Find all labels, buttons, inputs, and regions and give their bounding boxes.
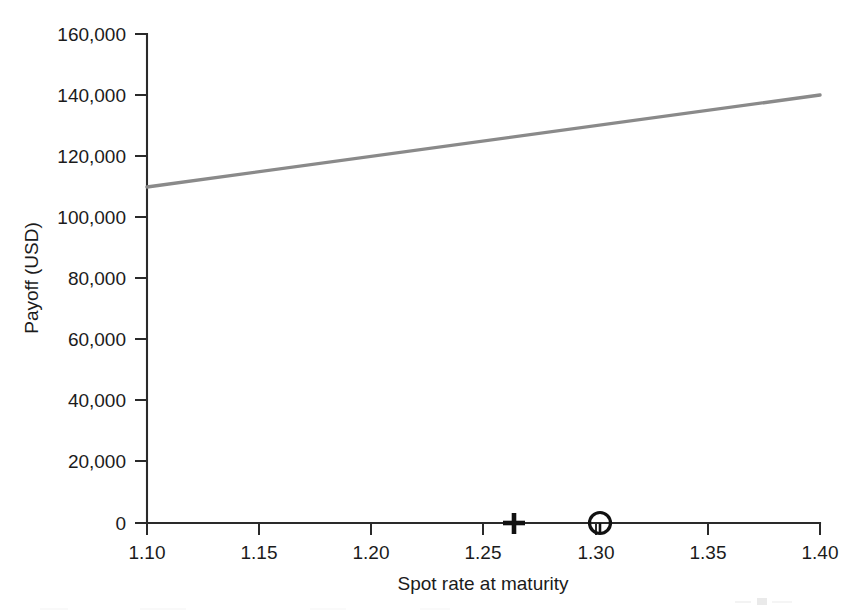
payoff-line [147,95,820,187]
x-tick-label-1-30: 1.30 [578,542,615,563]
y-tick-label-100000: 100,000 [57,207,126,228]
x-tick-label-1-40: 1.40 [802,542,839,563]
forward-rate-marker [503,513,525,534]
y-tick-label-160000: 160,000 [57,24,126,45]
x-tick-label-1-35: 1.35 [690,542,727,563]
y-tick-label-20000: 20,000 [68,451,126,472]
payoff-series [147,95,820,187]
x-axis-title: Spot rate at maturity [397,573,569,594]
y-tick-label-140000: 140,000 [57,85,126,106]
x-tick-label-1-25: 1.25 [465,542,502,563]
y-tick-label-60000: 60,000 [68,329,126,350]
y-tick-label-80000: 80,000 [68,268,126,289]
x-tick-label-1-20: 1.20 [353,542,390,563]
y-tick-label-40000: 40,000 [68,390,126,411]
chart-canvas: 160,000 140,000 120,000 100,000 80,000 6… [0,0,864,616]
x-tick-label-1-10: 1.10 [129,542,166,563]
y-tick-label-0: 0 [115,513,126,534]
y-axis: 160,000 140,000 120,000 100,000 80,000 6… [21,24,147,534]
payoff-chart-figure: 160,000 140,000 120,000 100,000 80,000 6… [0,0,864,616]
y-axis-title: Payoff (USD) [21,222,42,334]
x-axis: 1.10 1.15 1.20 1.25 1.30 1.35 1.40 Spot … [129,523,839,594]
y-tick-label-120000: 120,000 [57,146,126,167]
x-tick-label-1-15: 1.15 [241,542,278,563]
